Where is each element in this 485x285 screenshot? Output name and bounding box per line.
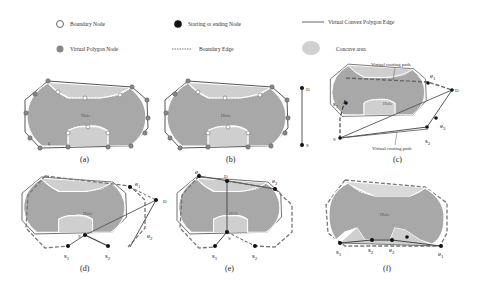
- s1-node: [213, 244, 217, 248]
- panel-a: Hole ζ (a): [24, 79, 150, 164]
- caption-d: (d): [80, 264, 90, 273]
- e2-label: e2: [440, 122, 446, 131]
- s-s1-line: [68, 235, 85, 246]
- s1-node: [66, 244, 70, 248]
- e2-node: [434, 116, 438, 120]
- s-label: S: [306, 143, 309, 148]
- s-s2-line-2: [340, 129, 428, 138]
- panel-f: Hole s1 s2 e2 e1 (f): [326, 180, 447, 273]
- caption-b: (b): [226, 155, 236, 164]
- panel-d: Hole S D s1 s2 e1 e2 (d): [22, 176, 167, 273]
- panel-e: Hole D S e1 e2 s1 s2 (e): [177, 168, 292, 273]
- legend-virtual-node: Virtual Polygon Node: [70, 46, 119, 52]
- d-node: [450, 88, 454, 92]
- s2-node: [253, 244, 257, 248]
- e1-node: [128, 185, 132, 189]
- e1-label: e1: [195, 168, 201, 177]
- caption-f: (f): [383, 264, 391, 273]
- caption-c: (c): [393, 155, 402, 164]
- zeta-label: ζ: [48, 141, 50, 146]
- s-s2-line: [85, 235, 108, 246]
- d-node: [154, 198, 158, 202]
- hole-label: Hole: [383, 101, 394, 106]
- caption-a: (a): [80, 155, 89, 164]
- concave-area-icon: [302, 41, 320, 55]
- s1-label: s1: [64, 252, 70, 261]
- s2-label: s2: [105, 252, 111, 261]
- d-node: [225, 179, 229, 183]
- e1-label: e1: [438, 250, 444, 259]
- e2-label: e2: [272, 177, 278, 186]
- path-bottom-pointer: [395, 132, 397, 145]
- d-label: D: [306, 87, 310, 92]
- e2-label: e2: [147, 232, 153, 241]
- s1-node: [344, 101, 348, 105]
- s1-label: s1: [336, 248, 342, 257]
- d-label: D: [455, 88, 459, 93]
- s1-label: s1: [212, 252, 218, 261]
- legend: Boundary Node Virtual Polygon Node Start…: [57, 19, 395, 55]
- e1-label: e1: [135, 180, 141, 189]
- s2-node: [370, 238, 374, 242]
- e1-node: [439, 244, 443, 248]
- panel-b: Hole D S (b): [164, 79, 310, 164]
- d-label: D: [163, 199, 167, 204]
- s-s2-line: [227, 232, 255, 246]
- s-s1-line: [215, 232, 227, 246]
- legend-virtual-edge: Virtual Convex Polygon Edge: [328, 19, 395, 25]
- inner-node: [405, 235, 409, 239]
- s-node: [338, 136, 342, 140]
- s1-node: [338, 241, 342, 245]
- s-node: [225, 230, 229, 234]
- hole-label: Hole: [81, 113, 92, 118]
- hole-label: Hole: [229, 211, 240, 216]
- s-label: S: [228, 236, 231, 241]
- legend-concave-area: Concave area: [336, 46, 366, 52]
- path-bottom-label: Virtual routing path: [372, 146, 412, 151]
- s-node: [300, 143, 304, 147]
- start-node-icon: [174, 20, 182, 28]
- e1-node: [426, 81, 430, 85]
- caption-e: (e): [225, 264, 234, 273]
- virtual-node-icon: [57, 46, 64, 53]
- e1-label: e1: [430, 72, 436, 81]
- hole-label: Hole: [83, 211, 94, 216]
- d-node: [300, 86, 304, 90]
- s2-node: [425, 125, 429, 129]
- s2-label: s2: [425, 137, 431, 146]
- boundary-node-icon: [57, 21, 64, 28]
- legend-boundary-edge: Boundary Edge: [199, 46, 234, 52]
- s2-label: s2: [368, 246, 374, 255]
- legend-start-node: Starting or ending Node: [188, 21, 242, 27]
- path-top-label: Virtual routing path: [371, 62, 411, 67]
- s2-label: s2: [252, 252, 258, 261]
- e2-label: e2: [389, 246, 395, 255]
- hole-label: Hole: [380, 212, 391, 217]
- panel-c: Hole Virtual routing path Virtual routin…: [330, 62, 459, 164]
- s-label: S: [78, 234, 81, 239]
- s-node: [83, 233, 87, 237]
- hole-label: Hole: [221, 113, 232, 118]
- e2-node: [390, 238, 394, 242]
- s2-node: [106, 244, 110, 248]
- d-label: D: [224, 174, 228, 179]
- legend-boundary-node: Boundary Node: [70, 21, 106, 27]
- diagram-canvas: Boundary Node Virtual Polygon Node Start…: [0, 0, 485, 285]
- s-label: S: [333, 137, 336, 142]
- e2-node: [273, 187, 277, 191]
